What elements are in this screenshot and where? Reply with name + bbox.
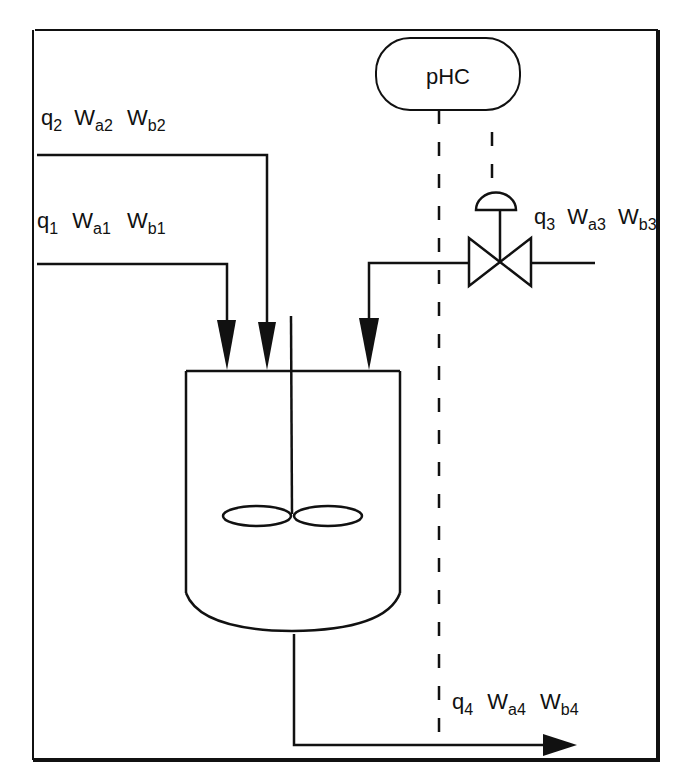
stream-4-label: q4 Wa4 Wb4 <box>452 689 579 720</box>
impeller-blade-right <box>294 506 362 526</box>
stream-2-label: q2 Wa2 Wb2 <box>41 105 166 136</box>
stream-1-line <box>37 264 227 320</box>
frame <box>33 30 660 760</box>
stream-2-line <box>37 155 267 322</box>
reactor-diagram: pHC <box>0 0 682 782</box>
stream-2-arrow <box>258 322 276 370</box>
stream-3-label: q3 Wa3 Wb3 <box>534 204 657 235</box>
agitator <box>223 316 362 526</box>
valve-body-left <box>469 238 500 286</box>
valve-actuator-icon <box>476 193 516 211</box>
ph-controller-label: pHC <box>426 64 470 89</box>
control-valve[interactable] <box>469 193 531 287</box>
stream-1-label: q1 Wa1 Wb1 <box>37 208 166 239</box>
stream-1-arrow <box>217 320 236 370</box>
impeller-blade-left <box>223 506 291 526</box>
stream-3-arrow <box>359 318 379 370</box>
stream-4-arrow <box>543 734 577 756</box>
valve-body-right <box>500 238 531 286</box>
ph-controller[interactable]: pHC <box>376 38 520 110</box>
